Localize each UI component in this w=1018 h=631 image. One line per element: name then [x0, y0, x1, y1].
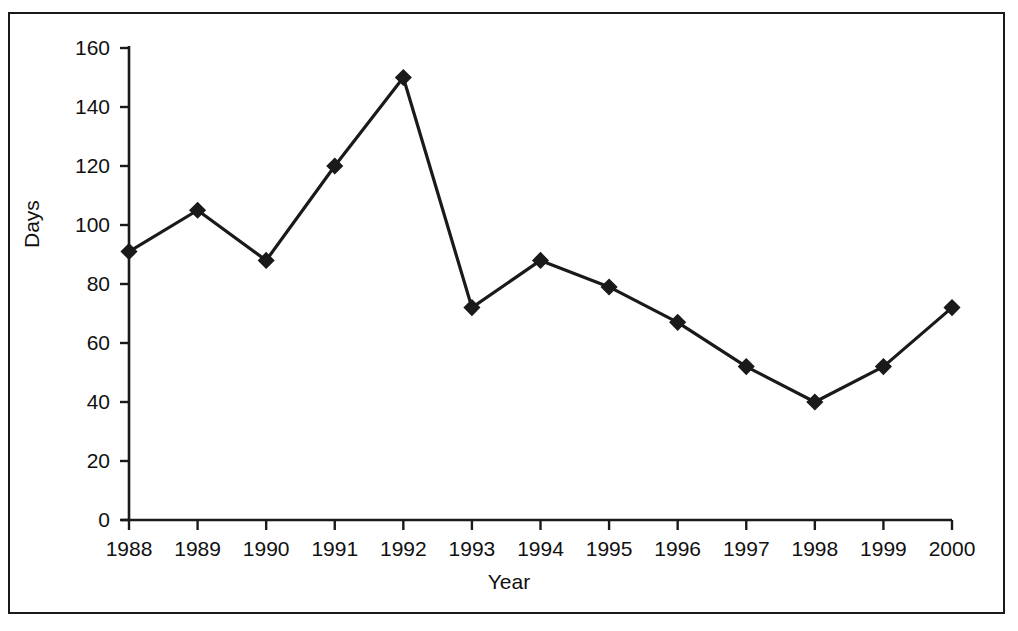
- data-series-group: [129, 78, 952, 403]
- data-point-marker: [122, 244, 137, 259]
- y-axis-tick-label: 120: [12, 155, 110, 176]
- chart-figure: 020406080100120140160 198819891990199119…: [0, 0, 1018, 631]
- data-markers-group: [122, 70, 960, 410]
- y-axis-tick-label: 60: [12, 332, 110, 353]
- y-axis-tick-label: 20: [12, 450, 110, 471]
- data-point-marker: [807, 395, 822, 410]
- y-axis-title: Days: [20, 200, 44, 248]
- y-axis-tick-label: 80: [12, 273, 110, 294]
- x-axis-tick-label: 2000: [907, 538, 997, 559]
- data-line-days: [129, 78, 952, 403]
- y-axis-tick-label: 140: [12, 96, 110, 117]
- axes-group: [121, 46, 952, 520]
- y-axis-tick-label: 0: [12, 509, 110, 530]
- axis-ticks-group: [120, 48, 952, 530]
- y-axis-tick-label: 160: [12, 37, 110, 58]
- y-axis-tick-label: 40: [12, 391, 110, 412]
- data-point-marker: [602, 279, 617, 294]
- x-axis-title: Year: [0, 570, 1018, 594]
